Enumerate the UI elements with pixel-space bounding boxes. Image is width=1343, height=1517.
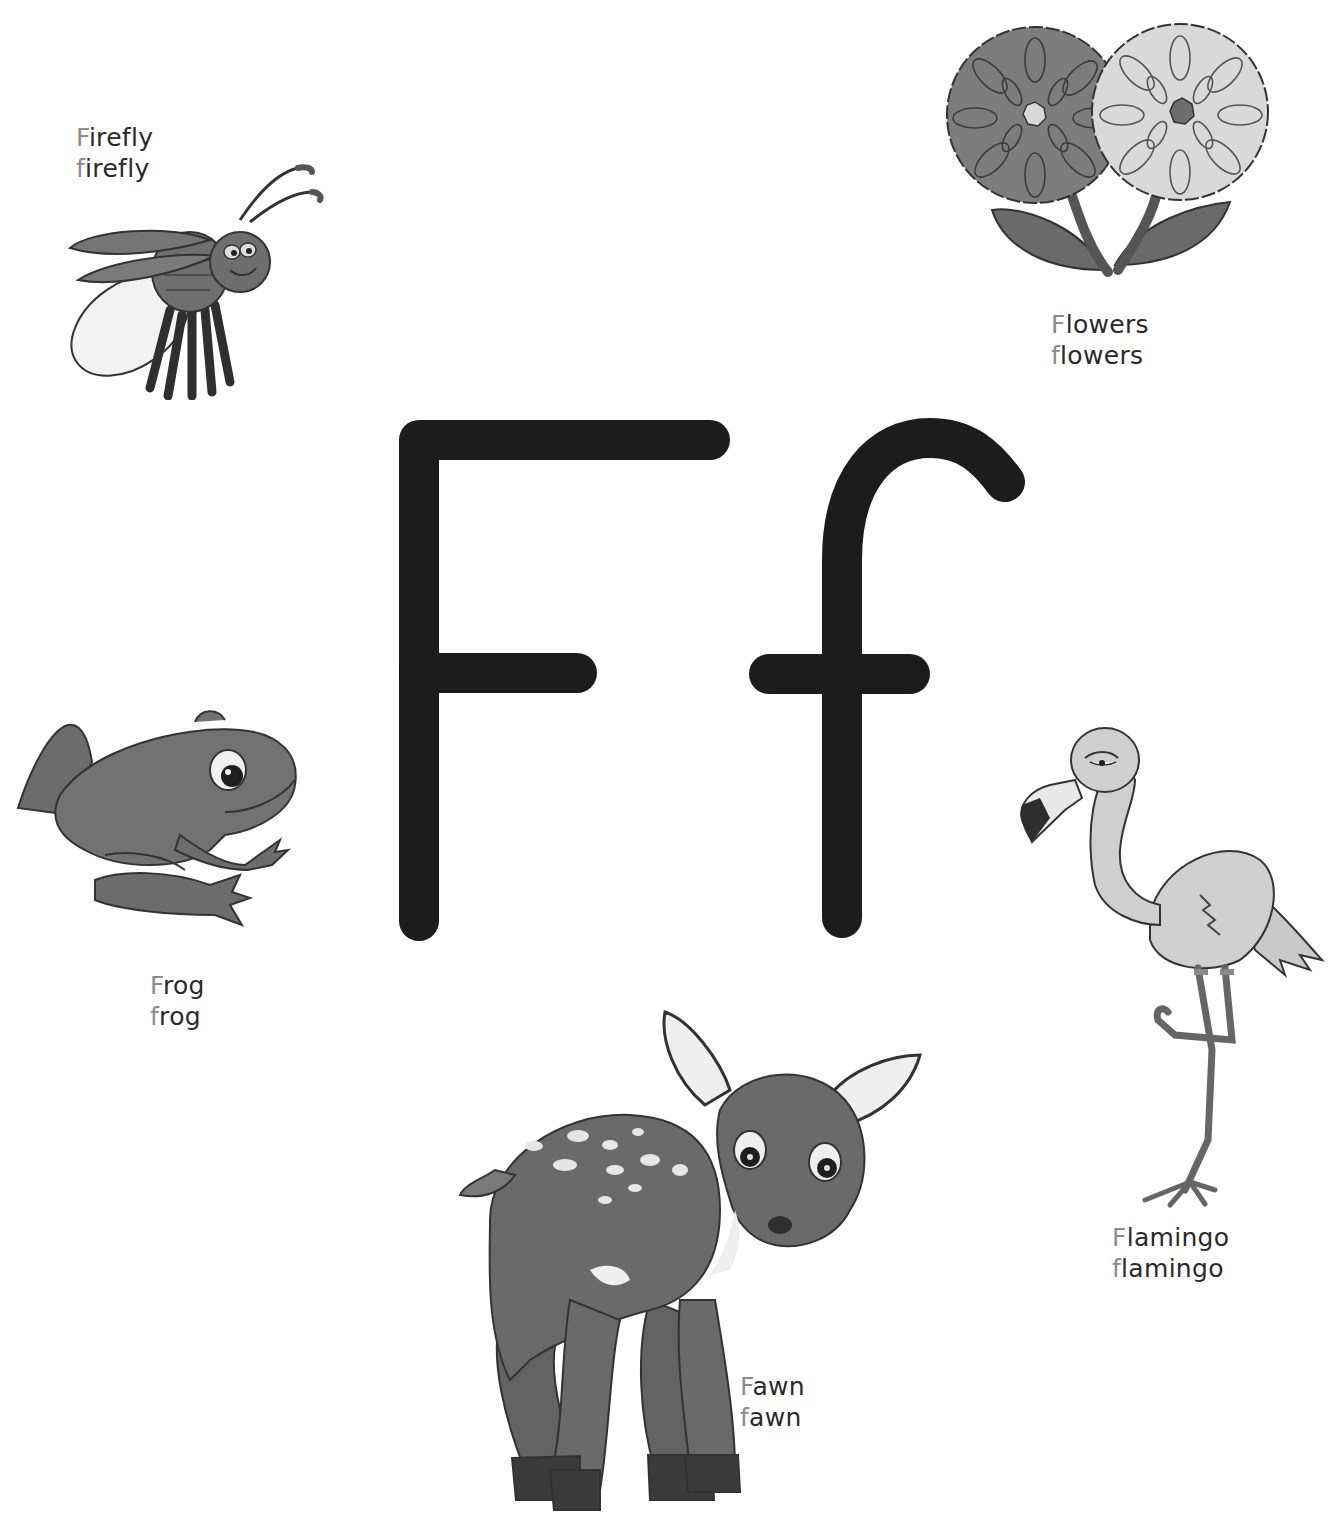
frog-illustration-icon	[10, 700, 310, 950]
uppercase-f-glyph	[419, 440, 710, 921]
lowercase-f-glyph	[769, 438, 1005, 918]
label-fawn: Fawn fawn	[740, 1371, 805, 1433]
word-lowercase: frog	[150, 1001, 205, 1032]
word-uppercase: Frog	[150, 970, 205, 1001]
word-uppercase: Flowers	[1051, 309, 1149, 340]
word-lowercase: flowers	[1051, 340, 1149, 371]
word-uppercase: Flamingo	[1112, 1222, 1229, 1253]
word-uppercase: Firefly	[76, 122, 153, 153]
word-lowercase: fawn	[740, 1402, 805, 1433]
label-flowers: Flowers flowers	[1051, 309, 1149, 371]
word-lowercase: flamingo	[1112, 1253, 1229, 1284]
flamingo-illustration-icon	[1010, 720, 1330, 1210]
fawn-illustration-icon	[450, 1000, 940, 1517]
firefly-illustration-icon	[50, 160, 330, 400]
light-flower	[1092, 24, 1268, 200]
label-frog: Frog frog	[150, 970, 205, 1032]
flowers-illustration-icon	[930, 20, 1290, 290]
label-flamingo: Flamingo flamingo	[1112, 1222, 1229, 1284]
word-uppercase: Fawn	[740, 1371, 805, 1402]
